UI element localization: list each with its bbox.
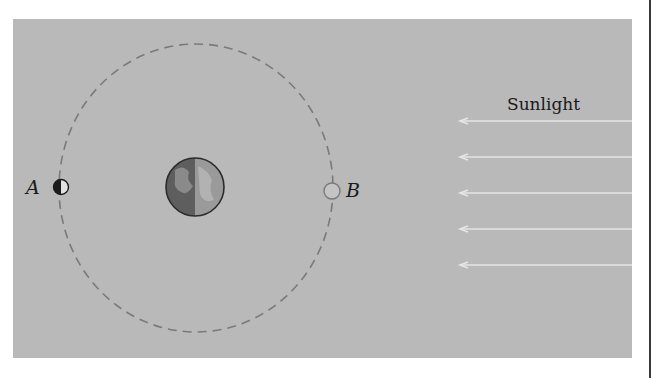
sunlight-rays xyxy=(460,118,632,268)
moon-b-icon xyxy=(324,183,340,199)
sunlight-label: Sunlight xyxy=(507,94,580,114)
position-a-label: A xyxy=(26,176,40,198)
sunlight-ray-arrow-icon xyxy=(460,262,632,268)
position-b-label: B xyxy=(346,179,360,201)
sunlight-ray-arrow-icon xyxy=(460,118,632,124)
orbit-diagram xyxy=(0,0,659,378)
sunlight-ray-arrow-icon xyxy=(460,154,632,160)
sunlight-ray-arrow-icon xyxy=(460,226,632,232)
earth-icon xyxy=(166,158,224,216)
moon-a-icon xyxy=(53,179,69,195)
sunlight-ray-arrow-icon xyxy=(460,190,632,196)
